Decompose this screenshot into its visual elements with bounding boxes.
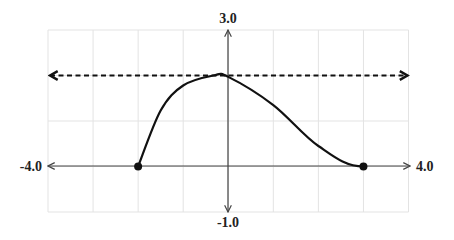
chart: 3.0 -1.0 -4.0 4.0 <box>0 0 454 240</box>
y-min-label: -1.0 <box>217 215 239 230</box>
endpoint-dot <box>359 163 367 171</box>
x-min-label: -4.0 <box>20 159 42 174</box>
y-max-label: 3.0 <box>219 11 237 26</box>
function-curve <box>138 74 363 167</box>
x-max-label: 4.0 <box>416 159 434 174</box>
endpoint-dot <box>134 163 142 171</box>
